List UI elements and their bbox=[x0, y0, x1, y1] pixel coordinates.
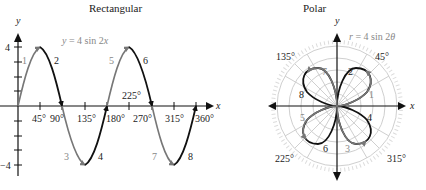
polar-x-arrow-left-icon bbox=[268, 102, 276, 110]
y-axis-label: y bbox=[15, 15, 21, 26]
x-axis-arrow-icon bbox=[206, 102, 214, 110]
polar-y-arrow-down-icon bbox=[333, 172, 341, 181]
rect-seg-label-1: 1 bbox=[22, 55, 27, 66]
rect-seg-label-5: 5 bbox=[109, 55, 114, 66]
y-tick-neg4: −4 bbox=[0, 160, 11, 171]
rect-seg-label-6: 6 bbox=[143, 55, 148, 66]
rect-seg-label-2: 2 bbox=[54, 55, 59, 66]
rect-seg-label-7: 7 bbox=[152, 151, 157, 162]
polar-seg-label-1: 1 bbox=[369, 89, 374, 100]
x-tick-270: 270° bbox=[133, 113, 152, 124]
x-tick-225: 225° bbox=[122, 90, 141, 101]
polar-seg-label-8: 8 bbox=[299, 89, 304, 100]
charts-canvas: y x 4 −4 y = 4 sin 2x 45° 90° 135° 180° … bbox=[0, 0, 426, 190]
polar-seg-label-6: 6 bbox=[323, 143, 328, 154]
angle-label-45: 45° bbox=[375, 51, 389, 62]
angle-label-225: 225° bbox=[275, 153, 294, 164]
polar-equation: r = 4 sin 2θ bbox=[349, 31, 395, 42]
y-axis-arrow-icon bbox=[14, 33, 22, 42]
polar-seg-label-5: 5 bbox=[300, 112, 305, 123]
rect-seg-label-4: 4 bbox=[98, 151, 103, 162]
polar-seg-label-2: 2 bbox=[348, 66, 353, 77]
x-tick-315: 315° bbox=[165, 113, 184, 124]
polar-x-arrow-right-icon bbox=[398, 102, 406, 110]
x-tick-90: 90° bbox=[50, 113, 64, 124]
angle-label-315: 315° bbox=[387, 153, 406, 164]
x-tick-45: 45° bbox=[32, 113, 46, 124]
x-tick-135: 135° bbox=[77, 113, 96, 124]
rect-seg-label-3: 3 bbox=[64, 151, 69, 162]
polar-seg-label-4: 4 bbox=[367, 112, 372, 123]
rect-seg-label-8: 8 bbox=[188, 151, 193, 162]
polar-seg-label-3: 3 bbox=[345, 143, 350, 154]
rect-equation: y = 4 sin 2x bbox=[61, 35, 109, 46]
x-tick-180: 180° bbox=[106, 113, 125, 124]
x-tick-360: 360° bbox=[195, 113, 214, 124]
polar-x-axis-label: x bbox=[409, 100, 415, 111]
polar-chart: y x r = 4 sin 2θ 45° 135° 225° 315° 1 2 … bbox=[268, 15, 415, 181]
angle-label-135: 135° bbox=[276, 51, 295, 62]
y-tick-4: 4 bbox=[5, 42, 10, 53]
polar-y-axis-label: y bbox=[334, 15, 340, 26]
rectangular-chart: y x 4 −4 y = 4 sin 2x 45° 90° 135° 180° … bbox=[0, 15, 221, 176]
polar-seg-label-7: 7 bbox=[322, 66, 327, 77]
polar-y-arrow-up-icon bbox=[333, 33, 341, 42]
x-axis-label: x bbox=[215, 100, 221, 111]
